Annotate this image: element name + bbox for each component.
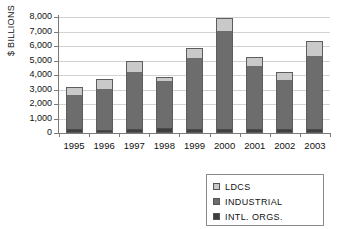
x-axis-tick [149, 133, 150, 137]
x-axis-tick [59, 133, 60, 137]
legend-item-label: LDCS [225, 182, 251, 192]
bar-segment [67, 95, 82, 130]
x-axis-tick-label: 1998 [147, 140, 181, 151]
legend-swatch-icon [213, 183, 220, 190]
legend-swatch-icon [213, 198, 220, 205]
chart-legend: LDCSINDUSTRIALINTL. ORGS. [206, 174, 324, 226]
bar-segment [127, 72, 142, 130]
bar-1996 [96, 79, 113, 133]
bar-segment [97, 131, 112, 132]
y-axis-tick [54, 119, 59, 120]
x-axis-tick-label: 1996 [87, 140, 121, 151]
x-axis-tick-label: 1997 [117, 140, 151, 151]
y-axis-tick-label: 8,000 [12, 12, 52, 21]
bar-segment [217, 19, 232, 30]
x-axis-tick-label: 2000 [208, 140, 242, 151]
x-axis-tick-label: 2001 [238, 140, 272, 151]
y-axis-tick [54, 46, 59, 47]
y-axis-tick-label: 0 [12, 128, 52, 137]
bar-segment [127, 130, 142, 132]
bar-segment [67, 130, 82, 132]
bar-segment [277, 73, 292, 80]
y-axis-tick-label: 7,000 [12, 27, 52, 36]
legend-item-label: INDUSTRIAL [225, 197, 283, 207]
bar-segment [187, 130, 202, 132]
bar-2003 [306, 41, 323, 133]
x-axis-tick [179, 133, 180, 137]
x-axis-tick-label: 2003 [298, 140, 332, 151]
y-axis-tick [54, 32, 59, 33]
bar-1997 [126, 61, 143, 134]
bar-segment [247, 58, 262, 66]
x-axis-tick [210, 133, 211, 137]
gridline [59, 17, 330, 18]
bar-segment [277, 80, 292, 130]
bar-1998 [156, 77, 173, 133]
bar-segment [247, 130, 262, 132]
bar-segment [307, 130, 322, 132]
bar-segment [187, 49, 202, 58]
bar-segment [307, 42, 322, 56]
y-axis-tick [54, 17, 59, 18]
bar-segment [97, 80, 112, 89]
bar-2000 [216, 18, 233, 133]
x-axis-line [58, 133, 331, 134]
bar-segment [307, 56, 322, 130]
bar-segment [97, 89, 112, 131]
bar-segment [157, 129, 172, 132]
y-axis-tick [54, 104, 59, 105]
legend-item: INTL. ORGS. [213, 209, 323, 224]
plot-area [59, 17, 330, 133]
y-axis-tick-label: 4,000 [12, 70, 52, 79]
bar-segment [217, 130, 232, 132]
bar-1999 [186, 48, 203, 133]
x-axis-tick-label: 2002 [268, 140, 302, 151]
legend-item: INDUSTRIAL [213, 194, 323, 209]
y-axis-tick-label: 3,000 [12, 85, 52, 94]
x-axis-tick [119, 133, 120, 137]
bar-2001 [246, 57, 263, 133]
gridline [59, 32, 330, 33]
x-axis-tick [270, 133, 271, 137]
y-axis-tick-labels: 8,0007,0006,0005,0004,0003,0002,0001,000… [8, 0, 52, 150]
y-axis-tick [54, 75, 59, 76]
bar-segment [247, 66, 262, 130]
x-axis-tick-label: 1995 [57, 140, 91, 151]
bar-segment [157, 81, 172, 129]
x-axis-tick [240, 133, 241, 137]
bar-2002 [276, 72, 293, 133]
bar-segment [127, 62, 142, 73]
bar-1995 [66, 87, 83, 133]
y-axis-tick [54, 90, 59, 91]
y-axis-tick-label: 6,000 [12, 41, 52, 50]
y-axis-tick [54, 61, 59, 62]
chart-figure: $ BILLIONS 8,0007,0006,0005,0004,0003,00… [0, 0, 337, 229]
bar-segment [217, 31, 232, 130]
legend-swatch-icon [213, 213, 220, 220]
gridline [59, 46, 330, 47]
x-axis-tick [300, 133, 301, 137]
bar-segment [67, 88, 82, 96]
x-axis-tick [89, 133, 90, 137]
x-axis-tick-label: 1999 [178, 140, 212, 151]
x-axis-tick [330, 133, 331, 137]
bar-segment [187, 58, 202, 130]
y-axis-tick-label: 2,000 [12, 99, 52, 108]
bar-segment [277, 130, 292, 132]
legend-item-label: INTL. ORGS. [225, 212, 283, 222]
y-axis-tick-label: 1,000 [12, 114, 52, 123]
legend-item: LDCS [213, 179, 323, 194]
y-axis-tick-label: 5,000 [12, 56, 52, 65]
